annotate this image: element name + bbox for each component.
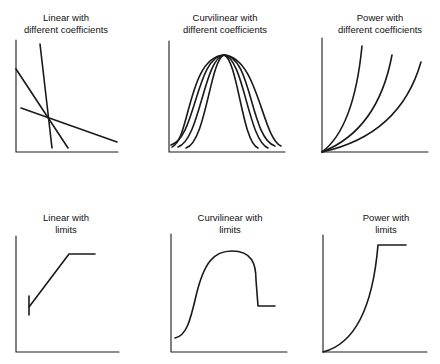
panel-curvilinear-limits <box>171 234 287 352</box>
curve-shallow <box>322 62 421 152</box>
panel-linear-limits <box>16 236 119 352</box>
panel-curvilinear-different <box>169 41 285 152</box>
axes <box>323 235 427 352</box>
curve-2 <box>178 55 268 148</box>
limited-curve <box>175 251 275 338</box>
panel-linear-different <box>16 40 118 152</box>
line-shallow <box>21 108 117 142</box>
curve-steep <box>322 46 362 152</box>
diagram-canvas <box>0 0 440 364</box>
limited-curve <box>323 245 406 352</box>
axes <box>16 236 119 352</box>
limited-line <box>29 254 95 307</box>
curve-medium <box>322 55 392 152</box>
axes <box>16 40 118 152</box>
curve-4 <box>172 55 281 147</box>
line-steep <box>40 44 52 148</box>
panel-power-limits <box>323 235 427 352</box>
panel-power-different <box>322 38 428 152</box>
